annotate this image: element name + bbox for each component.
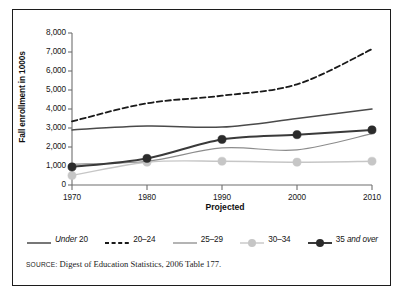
y-axis-title: Fall enrollment in 1000s <box>17 37 27 157</box>
x-axis-title: Projected <box>60 202 390 212</box>
legend-label-35-and-over: 35 and over <box>336 235 378 244</box>
y-axis-tick-label: 2,000 <box>32 142 66 151</box>
legend-swatch-30-34-icon <box>239 234 265 244</box>
legend-label-25-29: 25–29 <box>201 235 223 244</box>
series-line-20-24 <box>72 49 372 121</box>
y-axis-tick-label: 5,000 <box>32 85 66 94</box>
legend-item-35-and-over[interactable]: 35 and over <box>307 234 378 244</box>
legend-item-20-24[interactable]: 20–24 <box>104 234 155 244</box>
legend-label-under-20: Under 20 <box>55 235 88 244</box>
y-axis-tick-label: 8,000 <box>32 28 66 37</box>
legend-swatch-20-24-icon <box>104 234 130 244</box>
legend-swatch-35-and-over-icon <box>307 234 333 244</box>
source-prefix: SOURCE: <box>26 261 57 268</box>
legend-item-30-34[interactable]: 30–34 <box>239 234 290 244</box>
figure-container: Fall enrollment in 1000s Projected Under… <box>0 0 403 297</box>
x-axis-tick-label: 2000 <box>277 193 317 202</box>
x-axis-tick-label: 2010 <box>352 193 392 202</box>
source-note: SOURCE: Digest of Education Statistics, … <box>26 259 221 269</box>
legend-label-30-34: 30–34 <box>268 235 290 244</box>
x-axis-tick-label: 1970 <box>52 193 92 202</box>
x-axis-tick-label: 1980 <box>127 193 167 202</box>
y-axis-tick-label: 3,000 <box>32 123 66 132</box>
y-axis-tick-label: 7,000 <box>32 47 66 56</box>
y-axis-tick-label: 1,000 <box>32 161 66 170</box>
legend-swatch-under-20-icon <box>26 234 52 244</box>
series-line-under-20 <box>72 109 372 130</box>
legend-item-under-20[interactable]: Under 20 <box>26 234 88 244</box>
legend-swatch-25-29-icon <box>172 234 198 244</box>
series-line-30-34 <box>68 157 376 179</box>
chart-legend: Under 2020–2425–2930–3435 and over <box>26 231 378 247</box>
x-axis-tick-label: 1990 <box>202 193 242 202</box>
legend-label-20-24: 20–24 <box>133 235 155 244</box>
y-axis-tick-label: 6,000 <box>32 66 66 75</box>
legend-item-25-29[interactable]: 25–29 <box>172 234 223 244</box>
y-axis-tick-label: 4,000 <box>32 104 66 113</box>
source-text: Digest of Education Statistics, 2006 Tab… <box>60 259 222 269</box>
y-axis-tick-label: 0 <box>32 180 66 189</box>
